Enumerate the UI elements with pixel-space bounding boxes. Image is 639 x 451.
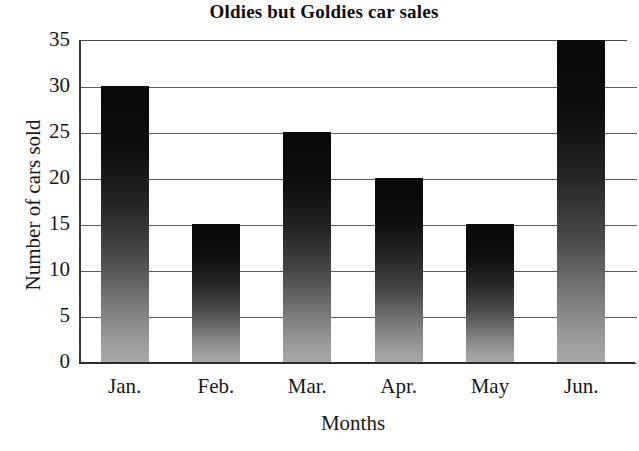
x-tick-label: May [444, 374, 535, 398]
x-tick-label: Mar. [262, 374, 353, 398]
x-tick-label: Feb. [170, 374, 261, 398]
bar-may [466, 224, 514, 362]
x-axis-title: Months [79, 411, 627, 435]
y-tick-label: 5 [10, 305, 70, 326]
bar-apr [375, 178, 423, 362]
bar-jan [101, 86, 149, 362]
y-tick-label: 30 [10, 75, 70, 96]
y-tick-label: 0 [10, 351, 70, 372]
y-tick-label: 25 [10, 121, 70, 142]
x-tick-label: Jun. [536, 374, 627, 398]
bar-feb [192, 224, 240, 362]
bar-mar [283, 132, 331, 362]
y-tick-label: 10 [10, 259, 70, 280]
bars-layer [79, 40, 627, 362]
x-axis-tick-labels: Jan.Feb.Mar.Apr.MayJun. [79, 374, 627, 402]
y-tick-label: 15 [10, 213, 70, 234]
x-tick-label: Jan. [79, 374, 170, 398]
y-axis-tick-labels: 05101520253035 [4, 40, 70, 363]
y-tick-label: 20 [10, 167, 70, 188]
bar-chart-figure: Oldies but Goldies car sales Number of c… [0, 0, 639, 451]
bar-jun [557, 40, 605, 362]
x-tick-label: Apr. [353, 374, 444, 398]
y-tick-label: 35 [10, 29, 70, 50]
chart-title: Oldies but Goldies car sales [79, 1, 569, 23]
x-axis-line [79, 362, 635, 364]
